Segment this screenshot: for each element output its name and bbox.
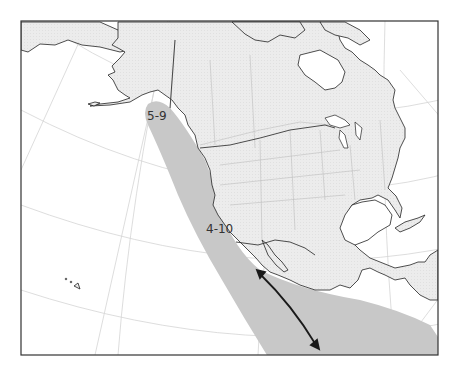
hawaii-islet xyxy=(70,281,72,283)
hawaii-islet xyxy=(65,278,67,280)
range-map: 5-9 4-10 xyxy=(0,0,459,371)
map-content: 5-9 4-10 xyxy=(21,20,459,360)
range-label-north: 5-9 xyxy=(147,109,167,123)
range-label-south: 4-10 xyxy=(206,222,233,236)
